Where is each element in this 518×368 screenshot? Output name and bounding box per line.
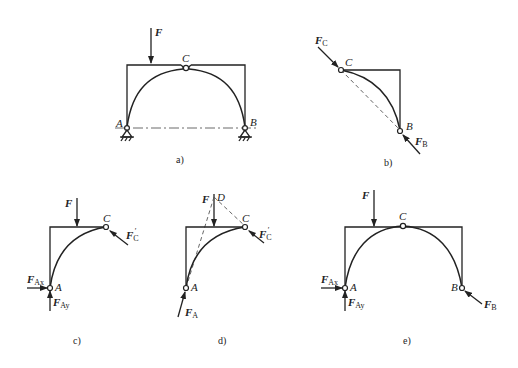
arch: [186, 227, 245, 288]
force-label-fb: FB: [483, 298, 497, 312]
caption-c: c): [73, 335, 81, 347]
frame: [345, 227, 462, 288]
caption-b: b): [384, 157, 392, 169]
force-label-fc-prime: FC′: [258, 226, 272, 242]
left-frame: [127, 65, 181, 127]
force-label-fa: FA: [184, 306, 198, 320]
force-label-fax: FAx: [320, 273, 338, 287]
label-c: C: [103, 212, 111, 224]
label-c: C: [345, 56, 353, 68]
force-label-f: F: [361, 189, 370, 201]
force-label-fay: FAy: [347, 296, 364, 310]
hinge-b: [398, 129, 403, 134]
panel-c: F C FC′ A FAx FAy c): [26, 197, 139, 347]
caption-a: a): [176, 154, 184, 166]
hinge-c: [339, 68, 344, 73]
panel-d: F D C FC′ A FA d): [178, 191, 272, 347]
label-c: C: [399, 210, 407, 222]
label-a: A: [54, 281, 62, 293]
frame: [50, 227, 106, 288]
hinge-c: [183, 65, 188, 70]
panel-a: F C A B a): [115, 26, 258, 166]
force-label-fb: FB: [414, 135, 428, 149]
label-b: B: [406, 120, 413, 132]
caption-d: d): [218, 335, 226, 347]
force-label-fax: FAx: [26, 273, 44, 287]
left-arch: [127, 69, 183, 127]
force-label-fc: FC: [314, 34, 328, 48]
hinge-a: [48, 286, 53, 291]
label-c: C: [242, 212, 250, 224]
label-a: A: [190, 281, 198, 293]
label-c: C: [182, 52, 190, 64]
hinge-c: [243, 225, 248, 230]
label-d: D: [216, 191, 225, 203]
panel-b: FC C B FB b): [314, 34, 428, 169]
right-arch: [189, 69, 245, 127]
hinge-a: [184, 286, 189, 291]
caption-e: e): [403, 335, 411, 347]
label-a: A: [115, 117, 123, 129]
force-label-fay: FAy: [52, 296, 69, 310]
label-a: A: [349, 281, 357, 293]
right-frame: [191, 65, 245, 127]
force-label-fc-prime: FC′: [125, 227, 139, 243]
panel-e: F C A FAx FAy B FB e): [320, 189, 497, 347]
three-hinged-arch-figure: F C A B a): [0, 0, 518, 368]
hinge-a: [343, 286, 348, 291]
label-b: B: [250, 116, 257, 128]
force-arrow-fb: [465, 291, 482, 304]
hinge-c: [104, 225, 109, 230]
dashed-da: [186, 197, 214, 288]
force-label-f: F: [201, 193, 210, 205]
label-b: B: [451, 281, 458, 293]
force-label-f: F: [154, 26, 163, 38]
line-of-action: [341, 70, 400, 130]
force-arrow-fa: [178, 292, 185, 317]
hinge-b: [460, 286, 465, 291]
arch: [50, 227, 106, 288]
arch: [345, 226, 462, 288]
force-label-f: F: [64, 197, 73, 209]
hinge-c: [400, 223, 405, 228]
force-arrow-fc: [318, 47, 338, 67]
